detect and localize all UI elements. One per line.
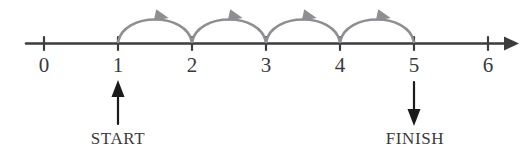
tick-label-2: 2 [172,55,212,76]
hop-arc-3-to-4 [266,20,340,43]
tick-label-6: 6 [468,55,508,76]
finish-label: FINISH [345,130,485,147]
tick-label-3: 3 [246,55,286,76]
hop-arc-2-to-3 [192,20,266,43]
hop-arc-1-to-2 [118,20,192,43]
tick-label-5: 5 [394,55,434,76]
start-arrowhead-icon [112,80,125,97]
axis-arrowhead-icon [504,37,519,51]
number-line-figure: 0 1 2 3 4 5 6 START FINISH [0,0,524,158]
finish-pointer-group [408,82,421,126]
hop-arc-4-to-5 [340,20,414,43]
tick-label-4: 4 [320,55,360,76]
hop-arcs-group [118,20,414,43]
finish-arrowhead-icon [408,109,421,126]
tick-label-0: 0 [24,55,64,76]
start-pointer-group [112,80,125,124]
tick-label-1: 1 [98,55,138,76]
start-label: START [48,130,188,147]
axis-line-group [26,37,519,51]
hop-arrowheads-group [154,9,392,24]
